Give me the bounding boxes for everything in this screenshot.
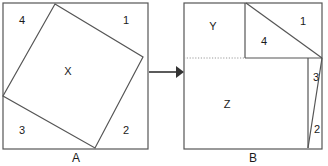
panel-b-dividers (245, 3, 322, 148)
region-label-y: Y (209, 20, 217, 32)
region-label-x: X (64, 65, 72, 77)
panel-a-caption: A (72, 151, 80, 165)
region-label-3: 3 (313, 71, 319, 83)
region-label-1: 1 (123, 14, 129, 26)
dissection-diagram: 41X32 A Y143Z2 B (0, 0, 328, 166)
transform-arrow-head (176, 66, 184, 78)
region-label-4: 4 (19, 14, 25, 26)
panel-a: 41X32 A (3, 3, 148, 165)
panel-a-labels: 41X32 (19, 14, 129, 136)
region-label-2: 2 (123, 124, 129, 136)
region-label-3: 3 (19, 124, 25, 136)
region-label-z: Z (224, 98, 231, 110)
panel-b: Y143Z2 B (184, 3, 322, 165)
figure-root: 41X32 A Y143Z2 B (0, 0, 328, 166)
region-label-1: 1 (300, 15, 306, 27)
transform-arrow-group (149, 66, 184, 78)
divider-diagonal-top (246, 3, 322, 58)
panel-b-labels: Y143Z2 (209, 15, 320, 135)
region-label-4: 4 (261, 35, 267, 47)
panel-b-caption: B (249, 151, 257, 165)
region-label-2: 2 (314, 123, 320, 135)
